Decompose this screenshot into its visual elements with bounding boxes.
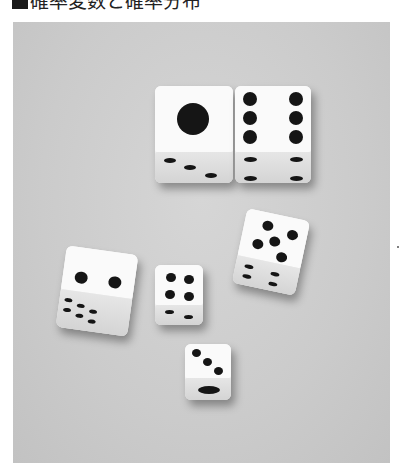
edge-mark: [397, 246, 399, 248]
title-text: 確率変数と確率分布: [30, 0, 201, 12]
dice-photo: [13, 22, 390, 463]
square-bullet-icon: [12, 0, 28, 9]
die-left-2: [56, 245, 139, 336]
die-right-5: [232, 208, 310, 296]
die-large-6: [235, 86, 311, 183]
pip: [177, 103, 209, 135]
die-large-1: [155, 86, 233, 183]
die-mid-4: [155, 265, 203, 325]
page-title: 確率変数と確率分布: [12, 0, 201, 12]
die-bottom-3: [185, 344, 231, 400]
